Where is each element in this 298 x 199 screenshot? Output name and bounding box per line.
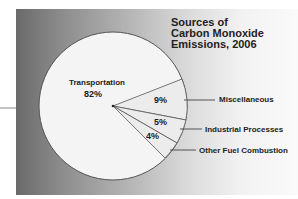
label-transportation-value: 82%	[84, 89, 102, 99]
label-miscellaneous-value: 9%	[154, 95, 167, 105]
pie-center-dot	[112, 105, 115, 108]
title-line-3: Emissions, 2006	[171, 39, 264, 50]
label-miscellaneous-name: Miscellaneous	[219, 95, 274, 104]
label-transportation-name: Transportation	[69, 78, 125, 87]
label-industrial-processes-name: Industrial Processes	[205, 125, 283, 134]
label-other-fuel-combustion-value: 4%	[146, 131, 159, 141]
chart-title: Sources of Carbon Monoxide Emissions, 20…	[171, 17, 264, 50]
label-other-fuel-combustion-name: Other Fuel Combustion	[199, 146, 288, 155]
label-industrial-processes-value: 5%	[154, 117, 167, 127]
